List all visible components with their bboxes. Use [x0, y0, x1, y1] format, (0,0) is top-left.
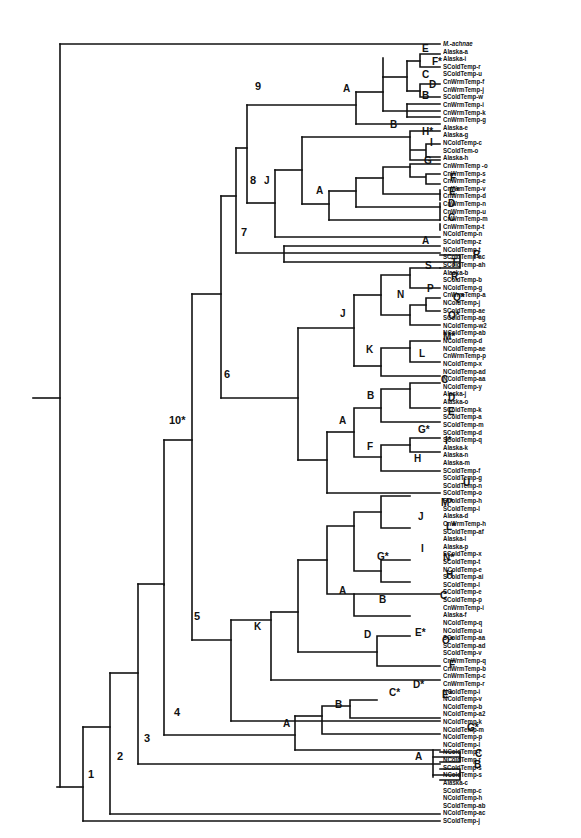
clade-label: A [339, 586, 346, 596]
tip-label: Alaska-n [443, 451, 468, 458]
clade-label: E [422, 44, 429, 54]
tip-label: SColdTem-o [443, 147, 478, 154]
tip-label: CnWrmTemp-c [443, 672, 486, 679]
clade-label: L [419, 349, 425, 359]
clade-label: F [449, 660, 455, 670]
tip-label: NColdTemp-c [443, 139, 482, 146]
clade-label: A [339, 416, 346, 426]
clade-label: A [316, 186, 323, 196]
clade-label: I [421, 544, 424, 554]
clade-label: I [430, 138, 433, 148]
tip-label: NColdTemp-aa [443, 375, 485, 382]
tip-label: M.-achnae [443, 40, 473, 47]
tip-label: CnWrmTemp-p [443, 352, 486, 359]
tip-label: SColdTemp-p [443, 596, 482, 603]
clade-label: I* [445, 436, 452, 446]
clade-label: N [397, 290, 404, 300]
major-node-label: 3 [144, 733, 150, 743]
clade-label: E* [442, 690, 453, 700]
tip-label: CnWrmTemp-t [443, 223, 484, 230]
tip-label: NColdTemp-b [443, 703, 482, 710]
clade-label: B [474, 760, 481, 770]
clade-label: B [390, 120, 397, 130]
tip-label: Alaska-g [443, 131, 468, 138]
clade-label: P [427, 284, 434, 294]
tip-label: CnWrmTemp-r [443, 680, 485, 687]
tip-label: NColdTemp-u [443, 627, 482, 634]
clade-label: B [422, 91, 429, 101]
clade-label: L* [446, 522, 456, 532]
major-node-label: 9 [255, 81, 261, 91]
clade-label: C [448, 213, 455, 223]
major-node-label: 4 [174, 707, 180, 717]
clade-label: B [379, 595, 386, 605]
tip-label: NColdTemp-ac [443, 809, 485, 816]
tip-label: SColdTemp-b [443, 276, 482, 283]
clade-label: M* [443, 332, 455, 342]
tip-label: SColdTemp-c [443, 787, 482, 794]
tip-label: NColdTemp-a2 [443, 710, 485, 717]
tip-label: CnWrmTemp-f [443, 78, 484, 85]
tip-label: NColdTemp-s [443, 771, 482, 778]
tip-label: CnWrmTemp -o [443, 162, 488, 169]
tip-label: CnWrmTemp-j [443, 86, 484, 93]
clade-label: G* [467, 723, 479, 733]
clade-label: A [343, 84, 350, 94]
tip-label: CnWrmTemp-k [443, 109, 486, 116]
tip-label: Alaska-m [443, 459, 470, 466]
clade-label: M* [441, 498, 453, 508]
major-node-label: 6 [224, 369, 230, 379]
clade-label: T [451, 258, 457, 268]
tip-label: CnWrmTemp-g [443, 116, 486, 123]
tip-label: Alaska-h [443, 154, 468, 161]
tip-label: NColdTemp-n [443, 230, 482, 237]
clade-label: D [448, 199, 455, 209]
clade-label: D* [413, 680, 424, 690]
tip-label: NColdTemp-l [443, 741, 480, 748]
tip-label: NColdTemp-w2 [443, 322, 487, 329]
clade-label: C [475, 749, 482, 759]
tip-label: NColdTemp-h [443, 794, 482, 801]
clade-label: D [364, 630, 371, 640]
clade-label: U [463, 478, 470, 488]
clade-label: Q* [453, 293, 465, 303]
clade-label: E* [449, 187, 460, 197]
clade-label: K [366, 345, 373, 355]
clade-label: B [335, 700, 342, 710]
tip-label: CnWrmTemp-i [443, 604, 484, 611]
tip-label: SColdTemp-o [443, 489, 482, 496]
tip-label: SColdTemp-w [443, 93, 483, 100]
clade-label: C [441, 375, 448, 385]
tip-label: SColdTemp-f [443, 467, 480, 474]
tip-label: NColdTemp-ad [443, 368, 486, 375]
clade-label: O* [448, 311, 460, 321]
clade-label: A [283, 719, 290, 729]
tip-label: Alaska-a [443, 48, 468, 55]
clade-label: D [448, 393, 455, 403]
major-node-label: 10* [169, 415, 186, 425]
clade-label: D [429, 80, 436, 90]
major-node-label: 7 [241, 227, 247, 237]
clade-label: A [415, 752, 422, 762]
clade-label: C* [389, 688, 400, 698]
clade-label: H [446, 570, 453, 580]
tip-label: Alaska-d [443, 512, 468, 519]
tip-label: SColdTemp-e [443, 588, 482, 595]
tip-label: SColdTemp-l [443, 581, 480, 588]
tip-label: Alaska-e [443, 124, 468, 131]
tip-label: NColdTemp-q [443, 619, 482, 626]
tip-label: Alaska-l [443, 535, 466, 542]
clade-label: A [422, 236, 429, 246]
clade-label: G* [418, 425, 430, 435]
tip-label: SColdTemp-ah [443, 261, 485, 268]
clade-label: K [254, 622, 261, 632]
tip-label: SColdTemp-ab [443, 802, 485, 809]
clade-label: E [448, 407, 455, 417]
clade-label: B [367, 391, 374, 401]
clade-label: F [450, 173, 456, 183]
tip-label: NColdTemp-p [443, 733, 482, 740]
tree-branches [33, 44, 460, 821]
clade-label: N* [443, 553, 454, 563]
tip-label: SColdTemp-r [443, 63, 481, 70]
phylogenetic-tree-diagram [0, 0, 581, 838]
